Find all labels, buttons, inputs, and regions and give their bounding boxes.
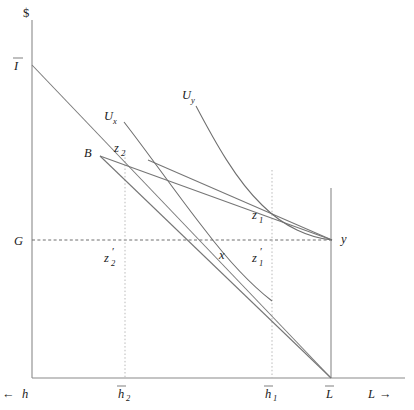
budget-line-full — [32, 65, 331, 378]
x-axis-right-arrow-icon: → — [379, 387, 392, 401]
point-label-z2-base: z — [113, 141, 119, 155]
x-tick-Lbar-base: L — [325, 387, 333, 401]
point-label-z2-subscript: 2 — [121, 148, 126, 158]
x-tick-hbar2: h 2 — [117, 386, 131, 403]
x-axis-left-label: h — [22, 387, 28, 401]
point-label-z1-prime-base: z — [251, 251, 257, 265]
point-label-z1-subscript: 1 — [259, 215, 263, 225]
point-label-z1: z 1 — [251, 208, 263, 225]
point-label-z2-prime-mark: ′ — [112, 245, 114, 257]
point-label-z2-prime-subscript: 2 — [111, 258, 116, 268]
diagram-svg: $ I G h 2 h 1 L ← h L → — [0, 0, 414, 410]
y-tick-G-label: G — [14, 234, 23, 248]
y-tick-Ibar-label: I — [13, 59, 19, 73]
x-tick-hbar1: h 1 — [264, 386, 277, 403]
y-axis-currency-symbol: $ — [23, 6, 29, 20]
curve-label-Ux: U x — [104, 109, 117, 126]
point-label-z1-prime: z 1 ′ — [251, 245, 263, 268]
x-tick-hbar1-subscript: 1 — [273, 393, 277, 403]
x-axis-right-label: L — [367, 387, 375, 401]
point-label-z1-prime-mark: ′ — [260, 245, 262, 257]
x-axis-left-direction: ← h — [2, 387, 28, 401]
diagram-figure: $ I G h 2 h 1 L ← h L → — [0, 0, 414, 410]
point-label-z2-prime-base: z — [103, 251, 109, 265]
x-tick-Lbar: L — [325, 386, 334, 401]
point-label-z2: z 2 — [113, 141, 126, 158]
tangent-line-B-to-y — [100, 156, 332, 240]
point-label-z1-base: z — [251, 208, 257, 222]
point-label-z2-prime: z 2 ′ — [103, 245, 116, 268]
indifference-curve-Uy — [196, 106, 332, 240]
point-label-y: y — [339, 232, 347, 246]
point-label-z1-prime-subscript: 1 — [259, 258, 263, 268]
curve-label-Ux-subscript: x — [112, 116, 117, 126]
curve-label-Uy: U y — [182, 88, 195, 105]
point-label-x: x — [218, 248, 225, 262]
x-tick-hbar1-base: h — [265, 387, 271, 401]
y-tick-Ibar: I — [13, 58, 23, 73]
point-label-B: B — [84, 146, 92, 160]
curve-label-Uy-subscript: y — [190, 95, 195, 105]
x-axis-right-direction: L → — [367, 387, 392, 401]
indifference-curve-Ux — [124, 122, 272, 301]
x-axis-left-arrow-icon: ← — [2, 387, 15, 401]
x-tick-hbar2-subscript: 2 — [126, 393, 131, 403]
x-tick-hbar2-base: h — [118, 387, 124, 401]
